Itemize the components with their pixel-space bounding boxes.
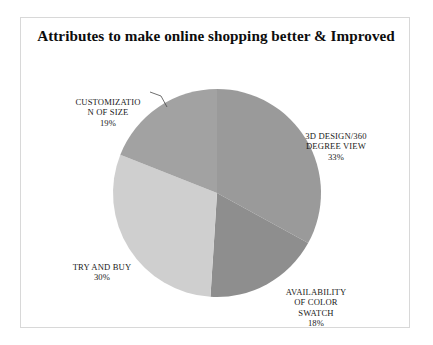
pie-label-try-and-buy-percent: 30% — [48, 272, 156, 283]
pie-label-customization-percent: 19% — [58, 118, 158, 129]
pie-label-customization-name: CUSTOMIZATIO N OF SIZE — [75, 97, 140, 118]
pie-label-3d-design: 3D DESIGN/360 DEGREE VIEW 33% — [284, 120, 388, 173]
pie-label-try-and-buy: TRY AND BUY 30% — [48, 251, 156, 293]
pie-label-color-swatch: AVAILABILITY OF COLOR SWATCH 18% — [264, 276, 368, 340]
pie-label-customization: CUSTOMIZATIO N OF SIZE 19% — [58, 86, 158, 139]
pie-label-3d-design-percent: 33% — [284, 152, 388, 163]
pie-label-color-swatch-name: AVAILABILITY OF COLOR SWATCH — [286, 287, 347, 318]
pie-label-try-and-buy-name: TRY AND BUY — [73, 262, 132, 272]
chart-page: Attributes to make online shopping bette… — [0, 0, 433, 345]
pie-label-color-swatch-percent: 18% — [264, 318, 368, 329]
pie-label-3d-design-name: 3D DESIGN/360 DEGREE VIEW — [305, 131, 366, 152]
